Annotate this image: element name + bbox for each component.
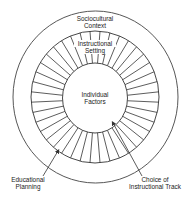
spoke (46, 121, 70, 140)
spoke (112, 128, 128, 153)
spoke (127, 106, 158, 112)
spoke (31, 101, 62, 102)
spoke (116, 47, 136, 72)
spoke (127, 92, 158, 95)
arrow-choice-of-instructional-track (113, 123, 142, 176)
label-setting: Setting (82, 47, 108, 54)
spoke (120, 121, 144, 140)
spoke (36, 72, 65, 85)
spoke (125, 111, 154, 122)
spoke (53, 125, 73, 148)
spoke (98, 133, 100, 163)
spoke (71, 130, 83, 158)
spoke (120, 54, 144, 75)
spoke (127, 82, 158, 90)
spoke (123, 116, 150, 131)
spoke (53, 47, 73, 72)
spoke (80, 132, 87, 161)
spoke (46, 54, 70, 75)
label-planning: Planning (4, 183, 52, 190)
label-instructional-track: Instructional Track (122, 183, 188, 190)
spoke (116, 125, 136, 148)
spoke (33, 82, 64, 90)
spoke (62, 128, 78, 153)
spoke (31, 92, 62, 95)
spoke (107, 130, 119, 158)
spoke (40, 63, 67, 80)
spoke (123, 63, 150, 80)
spoke (33, 106, 64, 112)
spoke (36, 111, 65, 122)
spoke (40, 116, 67, 131)
spoke (103, 132, 110, 161)
label-context: Context (66, 22, 124, 29)
spoke (127, 101, 158, 102)
label-factors: Factors (70, 98, 120, 105)
spoke (125, 72, 154, 85)
spoke (90, 133, 92, 163)
